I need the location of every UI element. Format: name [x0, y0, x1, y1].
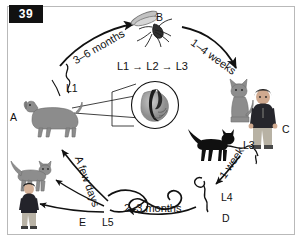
key-label-a: A: [10, 112, 17, 123]
l3-larva-tail: [255, 155, 256, 164]
key-label-d: D: [222, 213, 230, 224]
stage-label-l4: L4: [221, 192, 233, 203]
duration-label-l4-to-l5: 2–3 months: [124, 203, 181, 214]
key-label-c: C: [282, 124, 290, 135]
l4-larva-coil: [195, 178, 205, 188]
figure-panel: 39: [0, 0, 303, 243]
mosquito-illustration: [128, 6, 176, 50]
heart-inset-illustration: [130, 80, 180, 130]
key-label-e: E: [79, 217, 86, 228]
stage-label-l3: L3: [243, 140, 255, 151]
left-person-illustration: [18, 182, 40, 230]
dog-illustration: [22, 92, 84, 138]
stage-label-l5: L5: [102, 217, 114, 228]
plate-number-badge: 39: [9, 5, 43, 23]
l4-larva-body: [204, 186, 208, 212]
key-label-b: B: [156, 12, 163, 23]
stage-label-l1: L1: [66, 83, 78, 94]
larval-development-label: L1 → L2 → L3: [117, 61, 188, 72]
